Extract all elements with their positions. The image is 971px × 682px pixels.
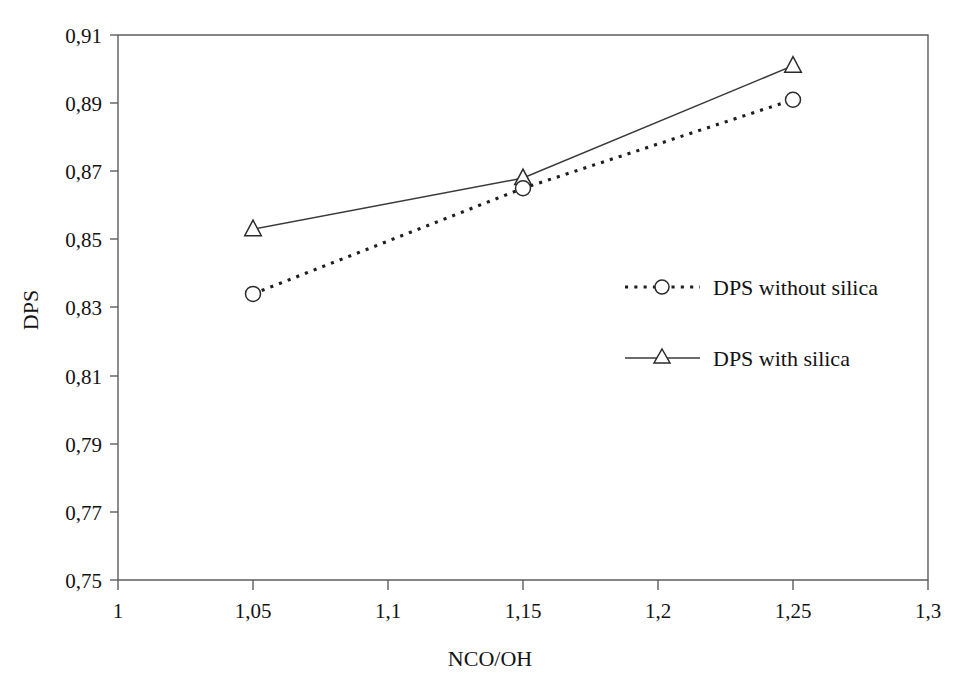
y-tick-label: 0,77 bbox=[65, 501, 102, 525]
y-tick-label: 0,79 bbox=[65, 433, 102, 457]
x-tick-label: 1,1 bbox=[375, 599, 401, 623]
open-triangle-icon bbox=[654, 349, 670, 363]
x-tick-label: 1,3 bbox=[915, 599, 941, 623]
legend-label-without-silica: DPS without silica bbox=[713, 275, 878, 300]
data-point-open-circle bbox=[516, 181, 531, 196]
x-axis-tick-labels: 1 1,05 1,1 1,15 1,2 1,25 1,3 bbox=[113, 599, 941, 623]
x-axis-ticks bbox=[118, 580, 928, 590]
data-point-open-circle bbox=[246, 286, 261, 301]
chart-legend: DPS without silica DPS with silica bbox=[625, 275, 878, 371]
x-tick-label: 1,2 bbox=[645, 599, 671, 623]
series-dps-without-silica bbox=[246, 92, 801, 301]
y-tick-label: 0,75 bbox=[65, 569, 102, 593]
y-tick-label: 0,87 bbox=[65, 160, 102, 184]
open-circle-icon bbox=[655, 280, 669, 294]
x-tick-label: 1 bbox=[113, 599, 124, 623]
y-tick-label: 0,81 bbox=[65, 365, 102, 389]
y-tick-label: 0,89 bbox=[65, 92, 102, 116]
y-axis-tick-labels: 0,91 0,89 0,87 0,85 0,83 0,81 0,79 0,77 … bbox=[65, 24, 102, 593]
chart-figure: 0,91 0,89 0,87 0,85 0,83 0,81 0,79 0,77 … bbox=[0, 0, 971, 682]
data-point-open-circle bbox=[786, 92, 801, 107]
series-line-without-silica bbox=[253, 100, 793, 294]
plot-frame bbox=[118, 35, 928, 580]
series-line-with-silica bbox=[253, 66, 793, 230]
x-tick-label: 1,05 bbox=[235, 599, 272, 623]
legend-entry-without-silica: DPS without silica bbox=[625, 275, 878, 300]
x-axis-title: NCO/OH bbox=[448, 646, 532, 671]
y-tick-label: 0,91 bbox=[65, 24, 102, 48]
chart-canvas: 0,91 0,89 0,87 0,85 0,83 0,81 0,79 0,77 … bbox=[0, 0, 971, 682]
y-axis-ticks bbox=[110, 35, 118, 580]
series-markers-with-silica bbox=[245, 57, 802, 236]
series-dps-with-silica bbox=[245, 57, 802, 236]
legend-entry-with-silica: DPS with silica bbox=[625, 346, 850, 371]
y-axis-title: DPS bbox=[18, 290, 43, 330]
x-tick-label: 1,15 bbox=[505, 599, 542, 623]
legend-label-with-silica: DPS with silica bbox=[713, 346, 850, 371]
y-tick-label: 0,85 bbox=[65, 228, 102, 252]
y-tick-label: 0,83 bbox=[65, 296, 102, 320]
x-tick-label: 1,25 bbox=[775, 599, 812, 623]
data-point-open-triangle bbox=[785, 57, 802, 72]
